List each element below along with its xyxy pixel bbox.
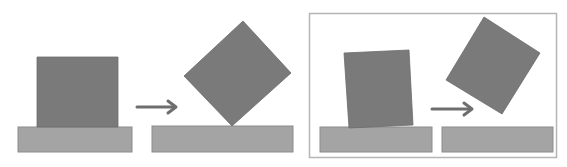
tipping-block-diagram [0,0,567,167]
block-after [184,21,291,126]
ground-slab [442,127,553,152]
arrow-right-icon [137,101,176,113]
panel-left-pair [18,21,293,152]
block-after [446,17,540,114]
ground-slab [320,127,432,152]
ground-slab [18,127,132,152]
panel-right-pair-framed [310,14,557,158]
arrow-right-icon [432,103,472,115]
block-before [344,50,413,128]
ground-slab [152,126,293,152]
block-before [37,57,118,127]
